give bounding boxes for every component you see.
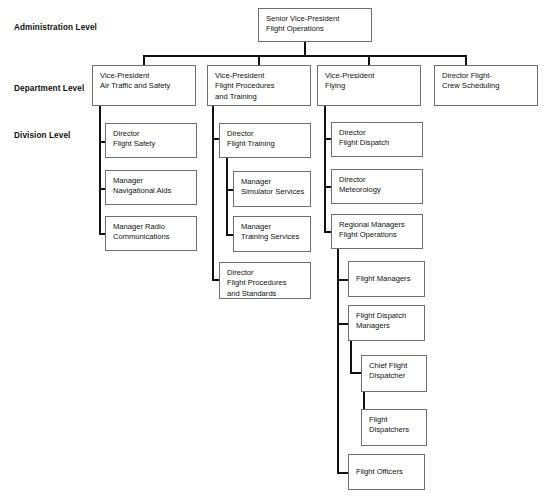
level-label-department: Department Level: [14, 84, 84, 93]
node-flight-managers[interactable]: Flight Managers: [348, 261, 425, 297]
level-label-division: Division Level: [14, 131, 70, 140]
node-flight-officers[interactable]: Flight Officers: [348, 454, 425, 490]
node-regional-managers-flight-operations[interactable]: Regional Managers Flight Operations: [331, 214, 423, 249]
connector-col3-sub-branch-c: [337, 472, 348, 474]
node-manager-simulator-services[interactable]: Manager Simulator Services: [233, 171, 311, 207]
connector-col3-sub-branch-b: [337, 323, 348, 325]
node-vice-president-air-traffic-and-safety[interactable]: Vice-President Air Traffic and Safety: [92, 65, 196, 106]
connector-col3-trunk: [324, 105, 326, 233]
node-vice-president-flight-procedures-and-training[interactable]: Vice-President Flight Procedures and Tra…: [207, 65, 311, 106]
node-chief-flight-dispatcher[interactable]: Chief Flight Dispatcher: [361, 355, 427, 392]
node-manager-navigational-aids[interactable]: Manager Navigational Aids: [105, 170, 197, 205]
node-director-meteorology[interactable]: Director Meteorology: [331, 169, 423, 204]
connector-col2-trunk: [212, 105, 214, 281]
node-manager-radio-communications[interactable]: Manager Radio Communications: [105, 216, 197, 251]
org-chart: Administration Level Department Level Di…: [0, 0, 543, 498]
connector-col2-subtrunk: [226, 157, 228, 236]
connector-dispatch-subtrunk: [350, 340, 352, 374]
connector-root-stem: [304, 41, 306, 56]
node-director-flight-safety[interactable]: Director Flight Safety: [105, 123, 197, 158]
node-manager-training-services[interactable]: Manager Training Services: [233, 216, 311, 252]
node-flight-dispatch-managers[interactable]: Flight Dispatch Managers: [348, 305, 425, 341]
node-director-flight-procedures-and-standards[interactable]: Director Flight Procedures and Standards: [219, 262, 311, 299]
connector-col1-trunk: [99, 105, 101, 235]
node-vice-president-flying[interactable]: Vice-President Flying: [317, 65, 421, 106]
connector-col3-subtrunk: [337, 249, 339, 474]
node-director-flight-dispatch[interactable]: Director Flight Dispatch: [331, 122, 423, 157]
connector-department-bus: [143, 55, 467, 57]
connector-chief-to-dispatchers: [363, 392, 365, 410]
level-label-administration: Administration Level: [14, 23, 97, 32]
node-director-flight-crew-scheduling[interactable]: Director Flight- Crew Scheduling: [434, 65, 538, 106]
connector-col3-sub-branch-a: [337, 279, 348, 281]
node-director-flight-training[interactable]: Director Flight Training: [219, 123, 311, 158]
node-senior-vice-president-flight-operations[interactable]: Senior Vice-President Flight Operations: [258, 8, 372, 42]
node-flight-dispatchers[interactable]: Flight Dispatchers: [361, 409, 427, 446]
